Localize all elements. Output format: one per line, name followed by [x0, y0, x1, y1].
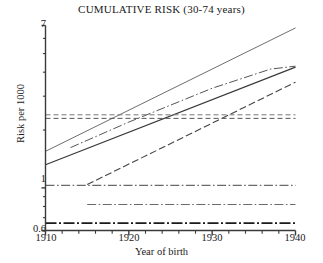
- plot-canvas: [0, 0, 323, 263]
- series-line-rising-solid-dark: [46, 67, 296, 165]
- series-line-rising-longdash: [87, 82, 295, 184]
- series-layer: [46, 28, 296, 223]
- series-line-rising-dashdot-curved: [71, 66, 296, 147]
- chart-figure: CUMULATIVE RISK (30-74 years) Risk per 1…: [0, 0, 323, 263]
- series-line-rising-solid-steep: [46, 28, 296, 151]
